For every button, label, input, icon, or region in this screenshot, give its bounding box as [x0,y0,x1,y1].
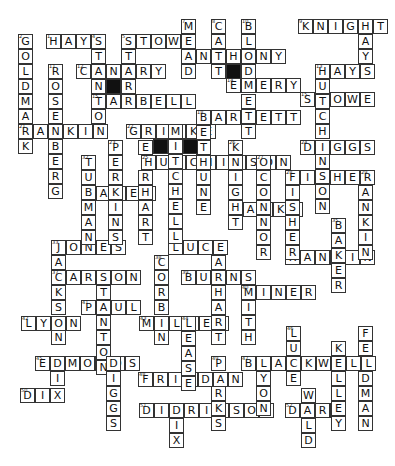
grid-cell[interactable]: N [91,79,106,94]
grid-cell[interactable]: R [48,169,63,184]
grid-cell[interactable]: A [211,34,226,49]
grid-cell[interactable]: C [315,109,330,124]
grid-cell[interactable]: S [181,361,196,376]
grid-cell[interactable]: N [228,372,243,387]
grid-cell[interactable]: N [48,124,63,139]
grid-cell[interactable]: O27 [256,155,271,170]
grid-cell[interactable]: O [66,240,81,255]
grid-cell[interactable]: D24 [300,140,315,155]
grid-cell[interactable]: S15 [300,92,315,107]
grid-cell[interactable]: Y [345,64,360,79]
grid-cell[interactable]: P49 [211,356,226,371]
grid-cell[interactable]: R [121,79,136,94]
grid-cell[interactable]: K [358,215,373,230]
grid-cell[interactable]: T [96,285,111,300]
grid-cell[interactable]: P23 [108,140,123,155]
grid-cell[interactable]: T [241,109,256,124]
grid-cell[interactable]: N [315,199,330,214]
grid-cell[interactable]: S [285,200,300,215]
grid-cell[interactable]: O [151,34,166,49]
grid-cell[interactable]: L [126,300,141,315]
grid-cell[interactable]: L44 [181,316,196,331]
grid-cell[interactable]: N [256,401,271,416]
grid-cell[interactable]: O [91,109,106,124]
grid-cell[interactable]: A [181,49,196,64]
grid-cell[interactable]: R [211,270,226,285]
grid-cell[interactable]: I [300,170,315,185]
grid-cell[interactable]: E [345,170,360,185]
grid-cell[interactable]: D50 [20,388,35,403]
grid-cell[interactable]: M [241,78,256,93]
grid-cell[interactable]: E [331,263,346,278]
grid-cell[interactable]: A [106,94,121,109]
grid-cell[interactable]: E45 [35,356,50,371]
grid-cell[interactable]: E [331,356,346,371]
grid-cell[interactable]: L [18,64,33,79]
grid-cell[interactable]: H [315,124,330,139]
grid-cell[interactable]: C [198,240,213,255]
grid-cell[interactable]: N [126,270,141,285]
grid-cell[interactable]: I [154,316,169,331]
grid-cell[interactable]: W [166,34,181,49]
grid-cell[interactable]: T [241,315,256,330]
grid-cell[interactable]: S [108,230,123,245]
grid-cell[interactable]: I [168,139,183,154]
grid-cell[interactable]: O [111,270,126,285]
grid-cell[interactable]: D [18,79,33,94]
grid-cell[interactable]: A [61,34,76,49]
grid-cell[interactable]: N [93,124,108,139]
grid-cell[interactable]: A [213,372,228,387]
grid-cell[interactable]: N [315,250,330,265]
grid-cell[interactable]: N [271,285,286,300]
grid-cell[interactable]: W [316,356,331,371]
grid-cell[interactable]: T [96,330,111,345]
grid-cell[interactable]: L [168,214,183,229]
grid-cell[interactable]: Y [76,34,91,49]
grid-cell[interactable]: N [108,215,123,230]
grid-cell[interactable]: A [96,300,111,315]
grid-cell[interactable]: E [256,78,271,93]
grid-cell[interactable]: I [328,19,343,34]
grid-cell[interactable]: I [241,300,256,315]
grid-cell[interactable]: E [108,155,123,170]
grid-cell[interactable]: O [48,79,63,94]
grid-cell[interactable]: S [315,169,330,184]
grid-cell[interactable]: N [66,316,81,331]
grid-cell[interactable]: H [241,330,256,345]
grid-cell[interactable]: N [358,245,373,260]
grid-cell[interactable]: O [256,185,271,200]
grid-cell[interactable]: C [256,170,271,185]
grid-cell[interactable]: T32 [81,155,96,170]
grid-cell[interactable]: E [151,94,166,109]
grid-cell[interactable]: S [48,94,63,109]
grid-cell[interactable]: C38 [154,255,169,270]
grid-cell[interactable]: U [315,79,330,94]
grid-cell[interactable]: T [138,230,153,245]
grid-cell[interactable]: S [125,356,140,371]
grid-cell[interactable]: R [301,285,316,300]
grid-cell[interactable]: C [168,169,183,184]
grid-cell[interactable]: Y [286,78,301,93]
grid-cell[interactable]: R [315,403,330,418]
grid-cell[interactable]: A [211,110,226,125]
grid-cell[interactable]: I [50,371,65,386]
grid-cell[interactable]: B [81,185,96,200]
grid-cell[interactable]: A [33,124,48,139]
grid-cell[interactable]: L42 [21,316,36,331]
grid-cell[interactable]: E [286,285,301,300]
grid-cell[interactable]: G [228,185,243,200]
grid-cell[interactable]: K [301,356,316,371]
grid-cell[interactable]: I [358,230,373,245]
grid-cell[interactable]: N [256,49,271,64]
grid-cell[interactable]: A [81,215,96,230]
grid-cell[interactable]: R [285,245,300,260]
grid-cell[interactable]: N [315,154,330,169]
grid-cell[interactable]: N [226,270,241,285]
grid-cell[interactable]: N [51,330,66,345]
grid-cell[interactable]: C12 [76,64,91,79]
grid-cell[interactable]: E [213,240,228,255]
grid-cell[interactable]: R [331,278,346,293]
grid-cell[interactable]: A [91,64,106,79]
grid-cell[interactable]: T [136,34,151,49]
grid-cell[interactable]: N [228,155,243,170]
